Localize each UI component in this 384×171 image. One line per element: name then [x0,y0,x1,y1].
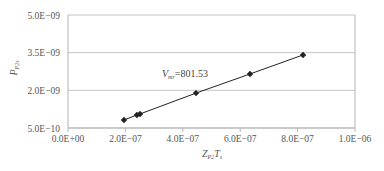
gridlines [68,15,355,128]
y-tick-label: 3.5E−09 [27,48,60,58]
y-axis-label: PP2s [8,60,20,77]
annotation-label: Vmr=801.53 [162,68,208,80]
x-tick-labels: 0.0E+002.0E−074.0E−076.0E−078.0E−071.0E−… [52,134,372,144]
x-tick-label: 2.0E−07 [109,134,142,144]
x-axis-label: ZP2Ts [202,148,223,160]
y-tick-labels: 5.0E−102.0E−093.5E−095.0E−09 [27,11,60,134]
y-tick-label: 5.0E−10 [27,124,60,134]
data-point-diamond [247,71,253,77]
y-tick-label: 2.0E−09 [27,86,60,96]
data-point-diamond [121,117,127,123]
x-tick-label: 1.0E−06 [339,134,372,144]
y-tick-label: 5.0E−09 [27,11,60,21]
data-series [121,52,306,123]
x-tick-label: 8.0E−07 [281,134,314,144]
axes [68,15,355,132]
x-tick-label: 4.0E−07 [167,134,200,144]
chart: 0.0E+002.0E−074.0E−076.0E−078.0E−071.0E−… [0,0,384,171]
x-tick-label: 0.0E+00 [52,134,85,144]
data-point-diamond [193,90,199,96]
series-line [124,55,303,120]
x-tick-label: 6.0E−07 [224,134,257,144]
